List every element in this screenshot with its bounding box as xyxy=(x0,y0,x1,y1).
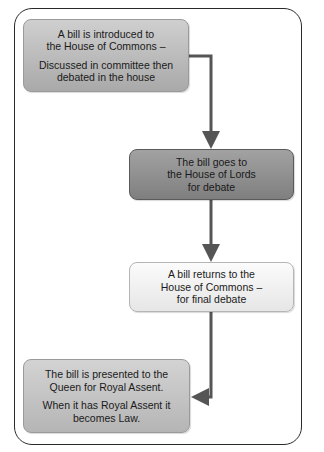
line: House of Commons – xyxy=(161,281,263,293)
step-royal-assent-text: The bill is presented to the Queen for R… xyxy=(45,368,168,393)
line: becomes Law. xyxy=(73,412,140,424)
step-introduced-text: A bill is introduced to the House of Com… xyxy=(46,28,165,53)
line: for debate xyxy=(188,181,235,193)
line: A bill is introduced to xyxy=(58,28,154,40)
line: The bill is presented to the xyxy=(45,368,168,380)
line: Discussed in committee then xyxy=(39,59,173,71)
line: the House of Commons – xyxy=(46,40,165,52)
line: for final debate xyxy=(177,293,246,305)
line: When it has Royal Assent it xyxy=(43,399,171,411)
line: Queen for Royal Assent. xyxy=(50,381,164,393)
step-royal-assent-box: The bill is presented to the Queen for R… xyxy=(23,359,190,433)
step-returns-box: A bill returns to the House of Commons –… xyxy=(129,262,294,312)
step-royal-assent-subtext: When it has Royal Assent it becomes Law. xyxy=(43,399,171,424)
arrow-step1-to-step2 xyxy=(189,56,211,140)
line: debated in the house xyxy=(57,71,155,83)
line: The bill goes to xyxy=(176,156,247,168)
step-lords-box: The bill goes to the House of Lords for … xyxy=(129,149,294,200)
step-introduced-subtext: Discussed in committee then debated in t… xyxy=(39,59,173,84)
arrow-step3-to-step4 xyxy=(200,312,211,397)
step-lords-text: The bill goes to the House of Lords for … xyxy=(167,156,256,194)
line: the House of Lords xyxy=(167,168,256,180)
step-returns-text: A bill returns to the House of Commons –… xyxy=(161,268,263,306)
line: A bill returns to the xyxy=(168,268,255,280)
step-introduced-box: A bill is introduced to the House of Com… xyxy=(23,19,189,92)
